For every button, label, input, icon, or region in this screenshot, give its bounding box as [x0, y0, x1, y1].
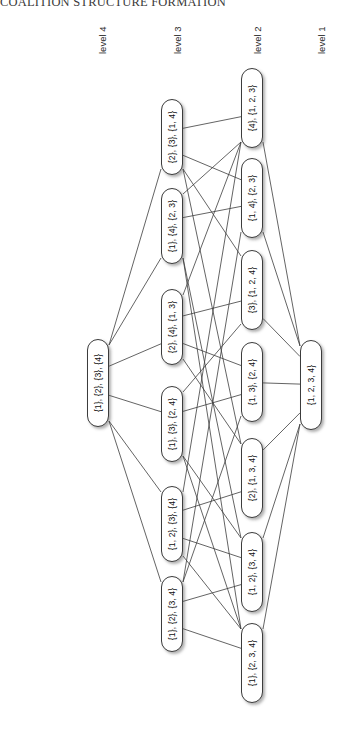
lattice-edge [263, 424, 300, 538]
lattice-node[interactable]: {1, 4}, {2, 3} [241, 158, 263, 238]
lattice-node-label: {1, 4}, {2, 3} [247, 175, 257, 221]
level-label-level2: level 2 [252, 27, 263, 54]
lattice-node-label: {1, 3}, {2, 4} [247, 359, 257, 405]
lattice-node[interactable]: {2}, {3}, {1, 4} [161, 99, 183, 175]
lattice-edge [183, 169, 241, 256]
lattice-node[interactable]: {1, 3}, {2, 4} [241, 342, 263, 422]
lattice-node-label: {3}, {1, 2, 4} [247, 267, 257, 313]
lattice-node[interactable]: {1, 2}, {3}, {4} [161, 486, 183, 562]
lattice-node[interactable]: {1, 2}, {3, 4} [241, 532, 263, 612]
lattice-edge [183, 456, 241, 629]
level-label-level4: level 4 [97, 27, 108, 54]
lattice-edge [263, 319, 300, 357]
lattice-node[interactable]: {2}, {4}, {1, 3} [161, 289, 183, 365]
lattice-edge [183, 324, 241, 392]
lattice-edge [263, 232, 300, 346]
lattice-edge [183, 117, 241, 129]
lattice-edge [183, 344, 241, 366]
lattice-edge [183, 142, 241, 492]
coalition-structure-lattice-figure: COALITION STRUCTURE FORMATION level 4lev… [0, 0, 340, 730]
lattice-edge [109, 169, 161, 345]
lattice-node-label: {2}, {3}, {1, 4} [167, 111, 177, 163]
lattice-node[interactable]: {3}, {1, 2, 4} [241, 250, 263, 330]
lattice-edge [263, 424, 300, 629]
lattice-edge [109, 258, 161, 345]
lattice-edge [263, 413, 300, 450]
lattice-node-label: {1}, {2}, {3}, {4} [93, 354, 103, 412]
lattice-edge [183, 556, 241, 629]
lattice-node-label: {4}, {1, 2, 3} [247, 85, 257, 131]
lattice-node-label: {1, 2}, {3, 4} [247, 549, 257, 595]
lattice-node-label: {1}, {2, 3, 4} [247, 640, 257, 686]
lattice-edge [109, 421, 161, 582]
lattice-edge [183, 232, 241, 582]
lattice-edge [109, 344, 161, 366]
lattice-edge [183, 585, 241, 602]
lattice-node[interactable]: {4}, {1, 2, 3} [241, 68, 263, 148]
lattice-edge [263, 142, 300, 346]
lattice-node[interactable]: {1}, {2, 3, 4} [241, 623, 263, 703]
lattice-node[interactable]: {1, 2, 3, 4} [300, 340, 322, 430]
lattice-node-label: {1}, {3}, {2, 4} [167, 398, 177, 450]
lattice-node-label: {2}, {1, 3, 4} [247, 455, 257, 501]
level-label-level1: level 1 [316, 27, 327, 54]
lattice-node-label: {1}, {2}, {3, 4} [167, 588, 177, 640]
lattice-node[interactable]: {1}, {2}, {3}, {4} [87, 339, 109, 427]
lattice-edge [109, 395, 161, 411]
lattice-node-label: {1}, {4}, {2, 3} [167, 200, 177, 252]
lattice-edge [183, 629, 241, 649]
lattice-edge [183, 142, 241, 295]
lattice-edge [183, 492, 241, 510]
lattice-node[interactable]: {1}, {2}, {3, 4} [161, 576, 183, 652]
lattice-node-label: {2}, {4}, {1, 3} [167, 301, 177, 353]
lattice-edge [263, 383, 300, 384]
lattice-edge [183, 142, 241, 194]
lattice-edge [183, 301, 241, 316]
lattice-edge [183, 258, 241, 538]
lattice-node-label: {1, 2, 3, 4} [306, 365, 316, 405]
lattice-node[interactable]: {1}, {3}, {2, 4} [161, 386, 183, 462]
lattice-node[interactable]: {1}, {4}, {2, 3} [161, 188, 183, 264]
lattice-edge [109, 421, 161, 492]
level-label-level3: level 3 [172, 27, 183, 54]
lattice-node[interactable]: {2}, {1, 3, 4} [241, 438, 263, 518]
lattice-node-label: {1, 2}, {3}, {4} [167, 498, 177, 550]
